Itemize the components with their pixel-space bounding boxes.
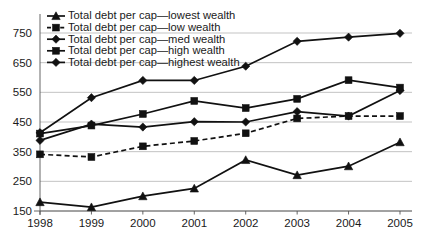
data-point-marker [397, 113, 404, 120]
x-tick-label: 1998 [27, 217, 53, 229]
data-point-marker [242, 118, 250, 126]
x-tick-label: 2001 [181, 217, 207, 229]
data-point-marker [88, 122, 95, 129]
data-point-marker [293, 37, 301, 45]
y-tick-label: 350 [13, 146, 32, 158]
data-point-marker [396, 138, 404, 146]
data-point-marker [191, 138, 198, 145]
series-lowest-wealth [36, 138, 404, 211]
y-tick-label: 550 [13, 86, 32, 98]
legend-label: Total debt per cap—med wealth [68, 33, 225, 45]
data-point-marker [397, 84, 404, 91]
y-tick-label: 150 [13, 205, 32, 217]
chart-legend: Total debt per cap—lowest wealthTotal de… [47, 9, 240, 67]
data-point-marker [190, 118, 198, 126]
data-point-marker [242, 62, 250, 70]
legend-marker-icon [52, 35, 60, 43]
data-point-marker [88, 154, 95, 161]
y-tick-label: 750 [13, 27, 32, 39]
data-point-marker [396, 29, 404, 37]
legend-label: Total debt per cap—low wealth [68, 21, 220, 33]
x-tick-label: 2005 [387, 217, 413, 229]
x-tick-label: 2003 [284, 217, 310, 229]
legend-item-high-wealth[interactable]: Total debt per cap—high wealth [47, 44, 225, 56]
data-point-marker [139, 143, 146, 150]
legend-item-med-wealth[interactable]: Total debt per cap—med wealth [47, 33, 225, 45]
y-tick-label: 250 [13, 175, 32, 187]
legend-label: Total debt per cap—lowest wealth [68, 9, 235, 21]
data-point-marker [344, 33, 352, 41]
series-high-wealth [37, 77, 404, 137]
x-tick-label: 2004 [336, 217, 362, 229]
data-point-marker [139, 123, 147, 131]
data-point-marker [242, 130, 249, 137]
data-point-marker [242, 105, 249, 112]
data-point-marker [139, 111, 146, 118]
legend-item-lowest-wealth[interactable]: Total debt per cap—lowest wealth [47, 9, 235, 21]
x-tick-label: 1999 [79, 217, 105, 229]
chart-canvas: 150250350450550650750 199819992000200120… [0, 0, 421, 236]
y-tick-label: 650 [13, 57, 32, 69]
legend-marker-icon [53, 47, 60, 54]
x-tick-label: 2000 [130, 217, 156, 229]
data-point-marker [191, 98, 198, 105]
line-chart: 150250350450550650750 199819992000200120… [0, 0, 421, 236]
data-point-marker [139, 76, 147, 84]
legend-marker-icon [53, 24, 60, 31]
legend-item-highest-wealth[interactable]: Total debt per cap—highest wealth [47, 56, 240, 68]
data-point-marker [293, 108, 301, 116]
legend-label: Total debt per cap—highest wealth [68, 56, 240, 68]
data-point-marker [242, 156, 250, 164]
legend-label: Total debt per cap—high wealth [68, 44, 225, 56]
data-point-marker [36, 136, 44, 144]
legend-marker-icon [52, 58, 60, 66]
legend-item-low-wealth[interactable]: Total debt per cap—low wealth [47, 21, 220, 33]
x-axis-tick-labels: 19981999200020012002200320042005 [27, 217, 413, 229]
y-tick-label: 450 [13, 116, 32, 128]
data-point-marker [190, 76, 198, 84]
x-tick-label: 2002 [233, 217, 259, 229]
y-axis-tick-labels: 150250350450550650750 [13, 27, 32, 217]
data-point-marker [37, 151, 44, 158]
data-point-marker [345, 77, 352, 84]
data-point-marker [294, 95, 301, 102]
